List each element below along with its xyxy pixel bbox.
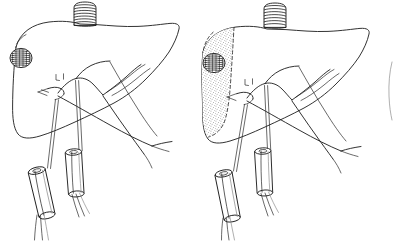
third-panel-partial-edge [389, 62, 392, 120]
vessel-loop-right [265, 86, 271, 150]
left-panel [10, 2, 179, 240]
liver-outline [13, 21, 180, 138]
tourniquet-snare-left [215, 168, 242, 223]
porta-hepatis [38, 61, 150, 100]
vessel-loop-right [76, 81, 83, 151]
vessel-loop-left [48, 100, 59, 169]
tourniquet-snare-right [255, 147, 274, 196]
inferior-vena-cava-stump [264, 3, 286, 28]
tourniquet-snare-right [65, 148, 84, 197]
inferior-vena-cava-stump [74, 2, 96, 26]
right-panel [202, 3, 369, 240]
porta-hepatis [227, 66, 339, 105]
ischemic-segment [202, 27, 234, 137]
tourniquet-snare-left [28, 165, 56, 220]
illustration-root [0, 0, 396, 241]
liver-illustration-svg [0, 0, 396, 241]
tumor-lesion [10, 47, 32, 69]
vessel-loop-left [234, 105, 248, 172]
